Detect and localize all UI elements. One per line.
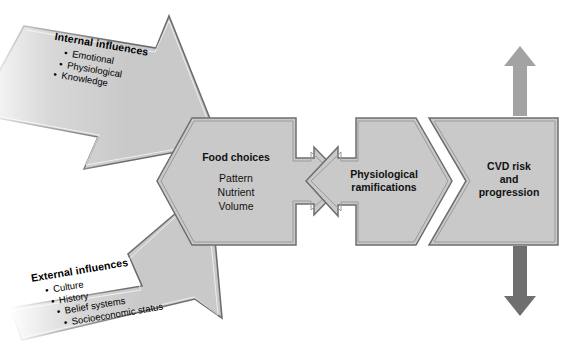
cvd-risk-title-line-2: and [460, 173, 558, 186]
decrease-arrow [504, 246, 536, 316]
food-choices-line-2: Nutrient [181, 185, 291, 199]
cvd-risk-title-line-1: CVD risk [460, 160, 558, 173]
food-choices-title: Food choices [181, 151, 291, 164]
food-choices-line-1: Pattern [181, 171, 291, 185]
diagram-canvas: Internal influences •Emotional •Physiolo… [0, 0, 583, 357]
increase-arrow [504, 46, 536, 116]
physiological-ramifications-title-line-2: ramifications [334, 181, 434, 194]
physiological-ramifications-label: Physiological ramifications [334, 168, 434, 194]
food-choices-label: Food choices Pattern Nutrient Volume [181, 151, 291, 213]
cvd-risk-title-line-3: progression [460, 186, 558, 199]
physiological-ramifications-title-line-1: Physiological [334, 168, 434, 181]
food-choices-line-3: Volume [181, 199, 291, 213]
cvd-risk-label: CVD risk and progression [460, 160, 558, 199]
